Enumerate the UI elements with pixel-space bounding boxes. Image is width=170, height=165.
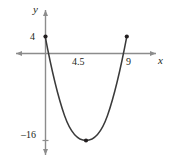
point-vertex — [84, 138, 88, 142]
y-axis — [43, 10, 48, 155]
x-axis-label: x — [158, 55, 163, 66]
y-axis-label: y — [33, 4, 38, 15]
parabola-figure: y x 4 4.5 9 –16 — [0, 0, 170, 165]
y-intercept-label: 4 — [30, 32, 35, 42]
x-axis — [16, 51, 156, 56]
plot-canvas — [0, 0, 170, 165]
parabola-curve — [45, 37, 127, 141]
x-intercept-label: 9 — [126, 57, 131, 67]
vertex-x-label: 4.5 — [72, 57, 85, 67]
vertex-y-label: –16 — [21, 130, 36, 140]
point-y-intercept — [43, 34, 47, 38]
point-right-endpoint — [125, 34, 129, 38]
